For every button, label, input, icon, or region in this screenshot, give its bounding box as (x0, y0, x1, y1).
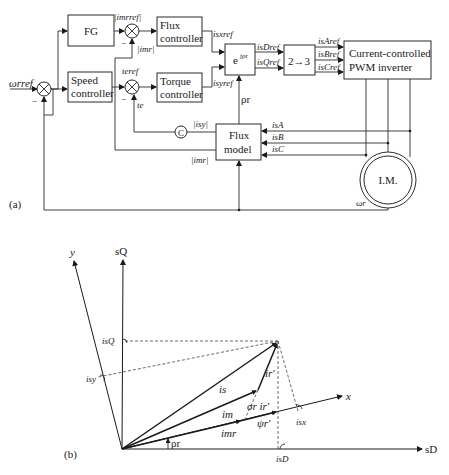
rotation-label: e (233, 54, 238, 66)
te-ref-label: teref (122, 66, 140, 76)
summing-junction-speed (37, 82, 51, 96)
isy-mag-label: |isy| (193, 119, 208, 129)
isy-projection (98, 341, 278, 377)
isQ-ref-label: isQref (257, 57, 281, 67)
figure-b-label: (b) (64, 448, 77, 461)
im-vector (122, 391, 256, 449)
omega-ref-label: ωrref (9, 77, 35, 89)
sQ-axis-label: sQ (115, 245, 127, 257)
im-label: im (222, 408, 233, 420)
isC-ref-label: isCref (318, 62, 341, 72)
minus-sign-1: − (32, 96, 37, 106)
isy-ref-label: isyref (213, 78, 234, 88)
isC-label: isC (272, 144, 285, 154)
isA-ref-label: isAref (318, 36, 341, 46)
sQ-axis (122, 260, 123, 449)
space-vector-diagram: sD sQ y x is ir' im imr σr ir' ψr' isQ i… (64, 245, 437, 464)
isD-ref-label: isDref (257, 42, 281, 52)
isA-label: isA (272, 120, 284, 130)
figure-a-label: (a) (9, 198, 22, 211)
motor-label: I.M. (379, 174, 398, 186)
te-label: te (137, 100, 144, 110)
sigma-ir-label: σr ir' (247, 400, 270, 412)
y-axis (74, 261, 122, 449)
summing-junction-torque (125, 80, 139, 94)
inverter-label-1: Current-controlled (349, 47, 431, 59)
torque-controller-label-2: controller (160, 88, 203, 100)
isB-label: isB (272, 132, 284, 142)
field-oriented-control-diagram: ωrref − FG Speed controller |imrref| − |… (0, 0, 449, 475)
inverter-label-2: PWM inverter (349, 61, 413, 73)
isB-ref-label: isBref (318, 49, 341, 59)
block-diagram: ωrref − FG Speed controller |imrref| − |… (9, 12, 431, 211)
imr-mag-label: |imr| (191, 155, 208, 165)
isx-label: isx (296, 417, 306, 427)
flux-controller-label-2: controller (160, 32, 203, 44)
speed-controller-label-2: controller (71, 87, 114, 99)
minus-sign-2: − (121, 38, 126, 48)
summing-junction-flux (125, 24, 139, 38)
isy-label: isy (86, 374, 96, 384)
minus-sign-3: − (121, 94, 126, 104)
psi-r-label: ψr' (257, 417, 271, 429)
isQ-label: isQ (102, 336, 115, 346)
imr-fb-label: |imr| (137, 44, 154, 54)
is-vector (122, 343, 276, 449)
speed-controller-label-1: Speed (71, 74, 98, 86)
isx-ref-label: isxref (213, 29, 234, 39)
torque-controller-label-1: Torque (160, 75, 191, 87)
sD-axis-label: sD (425, 443, 437, 455)
line-to-fg (51, 31, 67, 89)
rho-r-angle-label: ρr (171, 437, 180, 449)
flux-model-label-2: model (224, 143, 252, 155)
ir-label: ir' (265, 367, 275, 379)
isx-projection (278, 341, 298, 411)
is-label: is (219, 383, 226, 395)
fg-label: FG (84, 25, 98, 37)
omega-r-label: ωr (356, 198, 366, 208)
imr-label: imr (221, 427, 237, 439)
transform-label: 2→3 (288, 55, 311, 67)
flux-model-label-1: Flux (229, 129, 250, 141)
isD-label: isD (276, 454, 289, 464)
right-angle-mark-isD (280, 444, 285, 449)
imr-ref-label: |imrref| (114, 12, 141, 22)
rotation-sup-label: jρr (239, 52, 248, 60)
y-axis-label: y (69, 246, 75, 258)
x-axis-label: x (345, 390, 351, 402)
flux-controller-label-1: Flux (160, 19, 181, 31)
c-block-label: C (178, 128, 184, 138)
rho-r-label: ρr (241, 93, 250, 105)
